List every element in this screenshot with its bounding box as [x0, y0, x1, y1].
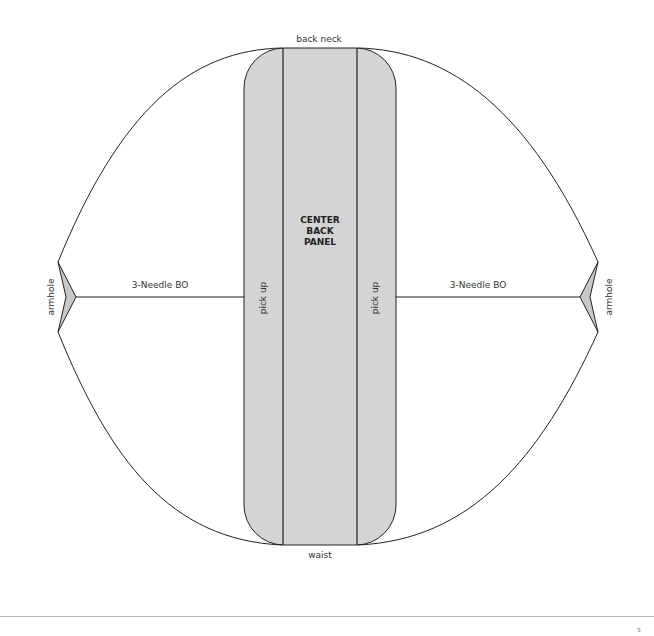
left-armhole-notch	[58, 262, 76, 332]
left-pickup-label: pick up	[258, 281, 268, 314]
back-panel-diagram: back neck waist CENTER BACK PANEL pick u…	[0, 0, 654, 636]
page-mark: 5	[637, 626, 641, 633]
waist-label: waist	[308, 550, 332, 560]
left-seam-label: 3-Needle BO	[132, 280, 189, 290]
right-armhole-label: armhole	[604, 278, 614, 316]
right-armhole-notch	[580, 262, 598, 332]
page-divider	[0, 616, 654, 617]
left-armhole-label: armhole	[46, 278, 56, 316]
center-panel-label-line1: CENTER	[300, 215, 340, 225]
back-neck-label: back neck	[296, 34, 342, 44]
right-pickup-label: pick up	[370, 281, 380, 314]
center-panel-label-line3: PANEL	[304, 237, 336, 247]
center-panel-label-line2: BACK	[306, 226, 334, 236]
right-seam-label: 3-Needle BO	[450, 280, 507, 290]
